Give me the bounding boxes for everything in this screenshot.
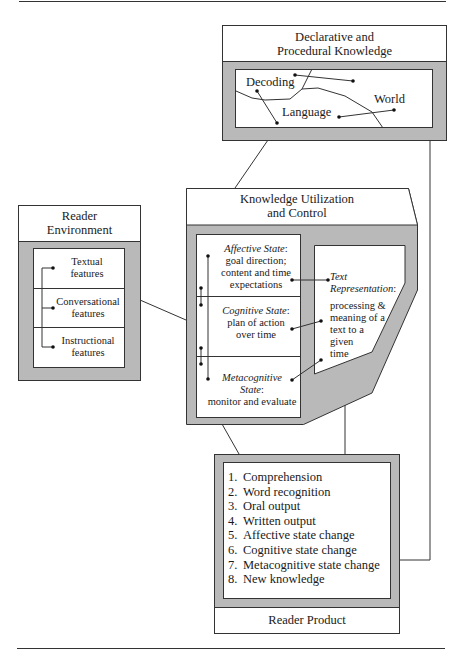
reader-product-title: Reader Product [214,613,400,627]
knowledge-base-title: Declarative and Procedural Knowledge [222,30,447,58]
node-decoding: Decoding [246,75,295,89]
metacognitive-state-name: State [240,384,261,395]
reader-environment-title-line1: Reader [18,209,141,223]
connector-environment-to-control [140,300,186,320]
cognitive-state-desc: over time [212,329,300,341]
knowledge-utilization-title-line2: and Control [186,206,408,220]
item-number: 2. [228,485,243,500]
feature-label: Conversational [48,296,128,308]
reader-environment-title-line2: Environment [18,223,141,237]
feature-label: features [50,347,126,359]
feature-label: Instructional [50,335,126,347]
text-representation-desc: given [330,336,396,348]
text-representation-desc: time [330,348,396,360]
text-representation-name: Text [330,271,396,283]
item-label: Oral output [243,499,300,513]
list-item: 4.Written output [228,514,380,529]
cognitive-state-desc: plan of action [212,317,300,329]
text-representation: Text Representation: processing & meanin… [330,271,396,360]
item-label: Written output [243,514,316,528]
item-number: 1. [228,470,243,485]
affective-state-desc: content and time [212,267,300,279]
item-label: Word recognition [243,485,331,499]
feature-textual: Textual features [50,256,124,280]
item-number: 3. [228,499,243,514]
list-item: 2.Word recognition [228,485,380,500]
knowledge-base-title-line2: Procedural Knowledge [222,44,447,58]
item-number: 8. [228,572,243,587]
item-number: 7. [228,558,243,573]
text-representation-desc: text to a [330,324,396,336]
knowledge-utilization-title-line1: Knowledge Utilization [186,192,408,206]
cognitive-state: Cognitive State: plan of action over tim… [212,305,300,341]
feature-label: features [50,268,124,280]
list-item: 1.Comprehension [228,470,380,485]
node-world: World [374,92,405,106]
item-label: Metacognitive state change [243,558,380,572]
list-item: 3.Oral output [228,499,380,514]
connector-control-to-product [222,424,239,454]
cognitive-state-name: Cognitive State [222,305,286,316]
item-number: 6. [228,543,243,558]
knowledge-base-title-line1: Declarative and [222,30,447,44]
reader-environment-title: Reader Environment [18,209,141,237]
feature-instructional: Instructional features [50,335,126,359]
metacognitive-state: Metacognitive State: monitor and evaluat… [204,372,300,408]
text-representation-desc: meaning of a [330,312,396,324]
text-representation-name: Representation [330,283,393,294]
reader-product-list: 1.Comprehension 2.Word recognition 3.Ora… [228,470,380,587]
list-item: 8.New knowledge [228,572,380,587]
item-label: New knowledge [243,572,325,586]
item-number: 5. [228,528,243,543]
metacognitive-state-name: Metacognitive [204,372,300,384]
item-label: Comprehension [243,470,322,484]
affective-state-desc: expectations [212,279,300,291]
feature-label: features [48,308,128,320]
feature-conversational: Conversational features [48,296,128,320]
node-language: Language [282,105,331,119]
list-item: 7.Metacognitive state change [228,558,380,573]
item-label: Cognitive state change [243,543,357,557]
text-representation-desc: processing & [330,300,396,312]
list-item: 5.Affective state change [228,528,380,543]
affective-state-name: Affective State [224,243,284,254]
list-item: 6.Cognitive state change [228,543,380,558]
metacognitive-state-desc: monitor and evaluate [204,396,300,408]
knowledge-utilization-title: Knowledge Utilization and Control [186,192,408,220]
item-label: Affective state change [243,528,355,542]
affective-state: Affective State: goal direction; content… [212,243,300,291]
connector-knowledge-to-control [235,140,268,188]
feature-label: Textual [50,256,124,268]
item-number: 4. [228,514,243,529]
affective-state-desc: goal direction; [212,255,300,267]
